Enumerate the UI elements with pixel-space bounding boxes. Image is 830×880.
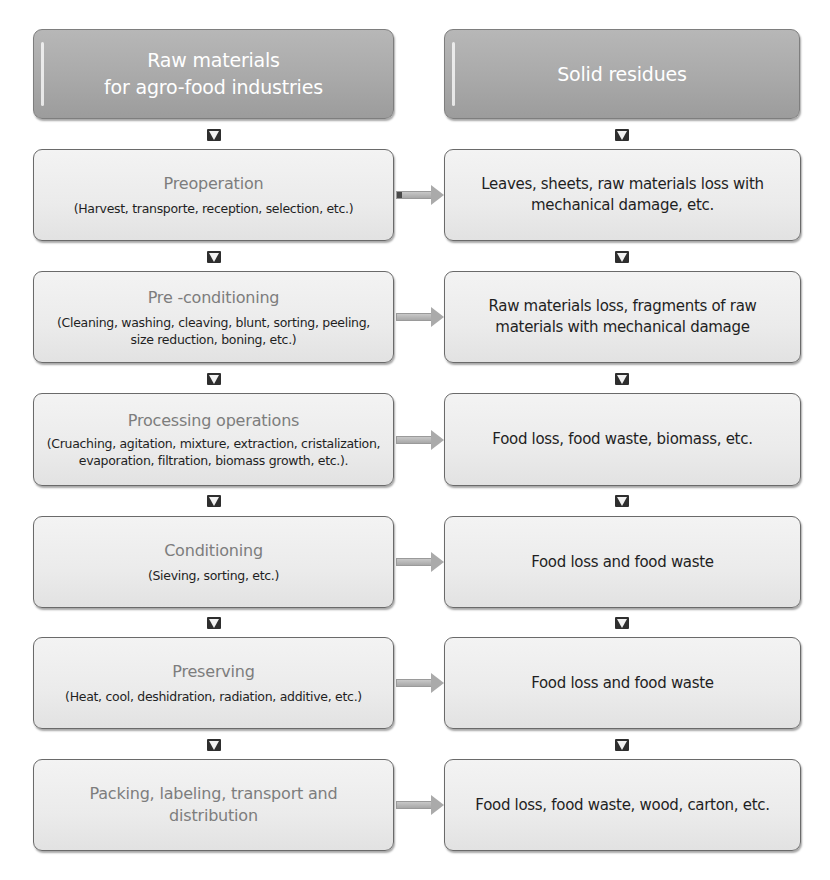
step-pre-conditioning: Pre -conditioning (Cleaning, washing, cl… — [33, 271, 394, 363]
step-title: Packing, labeling, transport and distrib… — [34, 783, 393, 827]
residue-text: Raw materials loss, fragments of raw mat… — [445, 296, 800, 338]
down-arrow-icon — [207, 495, 221, 507]
down-arrow-icon — [615, 617, 629, 629]
down-arrow-icon — [615, 495, 629, 507]
down-arrow-icon — [207, 373, 221, 385]
step-preoperation: Preoperation (Harvest, transporte, recep… — [33, 149, 394, 241]
residue-pre-conditioning: Raw materials loss, fragments of raw mat… — [444, 271, 801, 363]
step-description: (Harvest, transporte, reception, selecti… — [68, 200, 360, 217]
step-title: Conditioning — [164, 540, 263, 562]
residue-processing-operations: Food loss, food waste, biomass, etc. — [444, 393, 801, 486]
down-arrow-icon — [207, 739, 221, 751]
header-raw-materials-line2: for agro-food industries — [104, 74, 323, 101]
header-raw-materials-line1: Raw materials — [147, 47, 280, 74]
right-arrow-icon — [396, 188, 444, 202]
down-arrow-icon — [615, 373, 629, 385]
step-preserving: Preserving (Heat, cool, deshidration, ra… — [33, 637, 394, 729]
right-arrow-icon — [396, 798, 444, 812]
step-description: (Heat, cool, deshidration, radiation, ad… — [59, 688, 368, 705]
residue-packing-distribution: Food loss, food waste, wood, carton, etc… — [444, 759, 801, 851]
residue-text: Leaves, sheets, raw materials loss with … — [445, 174, 800, 216]
step-conditioning: Conditioning (Sieving, sorting, etc.) — [33, 516, 394, 608]
residue-preserving: Food loss and food waste — [444, 637, 801, 729]
header-solid-residues: Solid residues — [444, 29, 800, 119]
step-description: (Cruaching, agitation, mixture, extracti… — [34, 435, 393, 469]
right-arrow-icon — [396, 676, 444, 690]
step-title: Processing operations — [128, 410, 299, 432]
down-arrow-icon — [615, 251, 629, 263]
step-description: (Sieving, sorting, etc.) — [142, 567, 285, 584]
down-arrow-icon — [207, 129, 221, 141]
down-arrow-icon — [615, 129, 629, 141]
down-arrow-icon — [207, 617, 221, 629]
residue-text: Food loss and food waste — [523, 552, 722, 573]
residue-text: Food loss, food waste, wood, carton, etc… — [467, 795, 777, 816]
down-arrow-icon — [207, 251, 221, 263]
step-title: Preserving — [172, 661, 254, 683]
step-description: (Cleaning, washing, cleaving, blunt, sor… — [34, 314, 393, 348]
step-packing-distribution: Packing, labeling, transport and distrib… — [33, 759, 394, 851]
residue-text: Food loss, food waste, biomass, etc. — [484, 429, 760, 450]
right-arrow-icon — [396, 555, 444, 569]
down-arrow-icon — [615, 739, 629, 751]
residue-conditioning: Food loss and food waste — [444, 516, 801, 608]
residue-preoperation: Leaves, sheets, raw materials loss with … — [444, 149, 801, 241]
step-title: Preoperation — [164, 173, 264, 195]
step-title: Pre -conditioning — [148, 287, 280, 309]
right-arrow-icon — [396, 310, 444, 324]
header-raw-materials: Raw materials for agro-food industries — [33, 29, 394, 119]
residue-text: Food loss and food waste — [523, 673, 722, 694]
right-arrow-icon — [396, 433, 444, 447]
step-processing-operations: Processing operations (Cruaching, agitat… — [33, 393, 394, 486]
header-solid-residues-text: Solid residues — [557, 61, 687, 88]
